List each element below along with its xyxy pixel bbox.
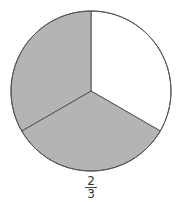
fraction-denominator: 3 [82, 188, 100, 200]
fraction-circle [0, 0, 179, 202]
fraction-numerator: 2 [82, 175, 100, 187]
fraction-label: 2 3 [82, 175, 100, 200]
